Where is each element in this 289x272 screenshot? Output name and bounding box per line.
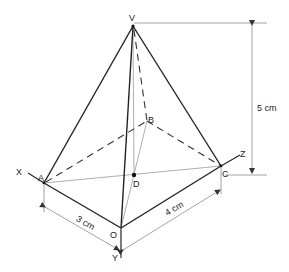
pyramid-diagram: V A B C D O X Y Z 5 cm 3 cm 4 cm [0, 0, 289, 272]
label-4cm: 4 cm [163, 199, 185, 218]
label-C: C [222, 169, 229, 179]
label-3cm: 3 cm [75, 214, 97, 232]
label-D: D [133, 179, 140, 189]
label-O: O [110, 230, 117, 240]
label-height-5cm: 5 cm [257, 103, 277, 113]
label-X: X [16, 167, 22, 177]
edge-VB-hidden [134, 30, 147, 121]
label-A: A [38, 173, 44, 183]
point-C [220, 165, 223, 168]
label-B: B [148, 115, 154, 125]
label-Y: Y [112, 253, 118, 263]
point-V [131, 24, 134, 27]
z-axis [221, 155, 240, 166]
edge-VO [121, 26, 133, 228]
height-VD [133, 26, 134, 175]
edge-VA [44, 26, 133, 183]
point-D [132, 173, 136, 177]
edge-VC [133, 26, 221, 166]
edge-BC-hidden [147, 121, 221, 166]
label-V: V [129, 13, 135, 23]
dimension-line-4cm [123, 190, 220, 250]
dimension-line-3cm [45, 207, 119, 250]
label-Z: Z [240, 149, 246, 159]
